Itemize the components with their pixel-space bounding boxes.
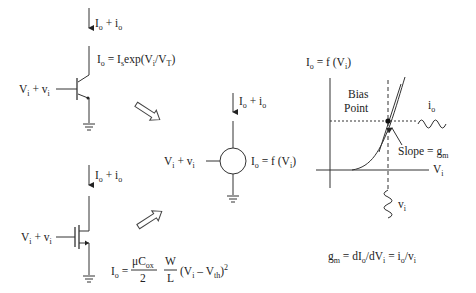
svg-text:Io=: Io= (111, 265, 128, 280)
generic-input-label: Vi + vi (164, 155, 196, 170)
device-circle-icon (220, 148, 246, 174)
transfer-characteristic-graph: Io = f (Vi) Vi Bias Point io Slope = gm … (306, 56, 449, 218)
slope-label: Slope = gm (398, 145, 449, 160)
generic-current-label: Io + io (239, 95, 266, 110)
graph-y-label: Io = f (Vi) (306, 56, 351, 71)
ground-icon (227, 196, 239, 202)
generic-equation: Io = f (Vi) (251, 155, 296, 170)
mosfet-current-label: Io + io (95, 169, 122, 184)
hollow-arrow-down-right-icon (133, 99, 163, 124)
transconductance-equation: gm = dIo/dVi = io/vi (328, 250, 417, 265)
bjt-current-label: Io + io (95, 17, 122, 32)
output-signal-label: io (428, 99, 435, 114)
mosfet-circuit: Io + io Vi + vi Io= μCox 2 W L (Vi – Vth… (21, 165, 228, 284)
svg-text:W: W (165, 255, 176, 267)
mosfet-equation: Io= μCox 2 W L (Vi – Vth)2 (111, 255, 228, 284)
bjt-equation: Io = Isexp(Vi/VT) (97, 53, 175, 68)
hollow-arrow-up-right-icon (135, 206, 165, 231)
bias-point-dot (385, 118, 390, 123)
diagram-canvas: Io + io Io = Isexp(Vi/VT) Vi + vi Io + i… (0, 0, 476, 293)
bias-label-line2: Point (344, 102, 369, 114)
input-signal-wave-icon (384, 190, 392, 218)
mosfet-input-label: Vi + vi (21, 231, 53, 246)
tangent-line (379, 84, 401, 152)
output-signal-wave-icon (418, 120, 446, 128)
graph-x-label: Vi (433, 163, 444, 178)
bjt-input-label: Vi + vi (19, 83, 51, 98)
generic-device-circuit: Io + io Vi + vi Io = f (Vi) (164, 93, 296, 202)
mosfet-source-arrow-icon (85, 241, 89, 246)
svg-text:L: L (167, 272, 174, 284)
svg-text:(Vi – Vth)2: (Vi – Vth)2 (180, 263, 228, 280)
slope-pointer-arrow (392, 128, 402, 145)
ground-icon (83, 124, 95, 130)
input-signal-label: vi (398, 198, 407, 213)
svg-text:2: 2 (140, 272, 146, 284)
svg-text:μCox: μCox (132, 255, 154, 270)
ground-icon (83, 276, 95, 282)
bias-label-line1: Bias (348, 88, 369, 100)
